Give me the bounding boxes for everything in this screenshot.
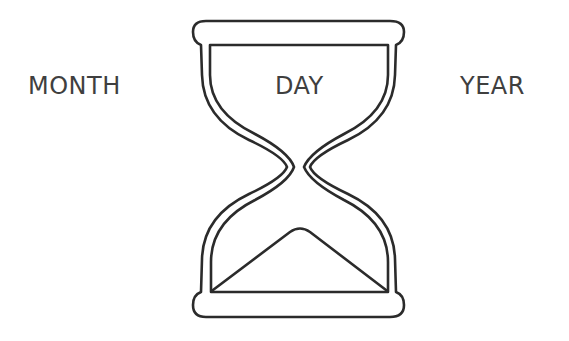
- hourglass-icon: [0, 0, 569, 341]
- hourglass-outer-outline: [193, 21, 404, 317]
- day-label: DAY: [275, 74, 324, 98]
- month-label: MONTH: [28, 74, 121, 98]
- sand-pile: [213, 229, 386, 291]
- year-label: YEAR: [460, 74, 525, 98]
